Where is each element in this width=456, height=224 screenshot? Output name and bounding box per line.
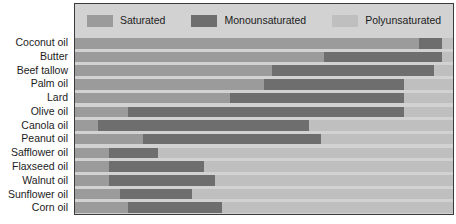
legend-swatch-monounsaturated bbox=[191, 15, 217, 27]
y-axis-tick-label: Olive oil bbox=[0, 106, 71, 117]
bar-row[interactable] bbox=[75, 93, 453, 104]
y-axis-tick-label: Peanut oil bbox=[0, 133, 71, 144]
bar-segment-monounsaturated[interactable] bbox=[109, 161, 204, 172]
bar-segment-saturated[interactable] bbox=[75, 120, 98, 131]
y-axis-tick-label: Safflower oil bbox=[0, 147, 71, 158]
bar-row[interactable] bbox=[75, 120, 453, 131]
bar-segment-monounsaturated[interactable] bbox=[272, 65, 435, 76]
bar-segment-polyunsaturated[interactable] bbox=[204, 161, 453, 172]
legend-label: Polyunsaturated bbox=[365, 15, 441, 26]
y-axis-tick-label: Butter bbox=[0, 51, 71, 62]
bar-segment-saturated[interactable] bbox=[75, 107, 128, 118]
legend-entry-saturated[interactable]: Saturated bbox=[87, 15, 166, 27]
bar-segment-polyunsaturated[interactable] bbox=[442, 38, 453, 49]
y-axis-tick-label: Corn oil bbox=[0, 202, 71, 213]
bar-segment-saturated[interactable] bbox=[75, 65, 272, 76]
bar-segment-monounsaturated[interactable] bbox=[109, 175, 215, 186]
bar-segment-monounsaturated[interactable] bbox=[98, 120, 310, 131]
bar-segment-saturated[interactable] bbox=[75, 52, 324, 63]
y-axis-tick-label: Walnut oil bbox=[0, 175, 71, 186]
bar-segment-polyunsaturated[interactable] bbox=[404, 107, 453, 118]
bar-row[interactable] bbox=[75, 189, 453, 200]
bar-row[interactable] bbox=[75, 175, 453, 186]
bar-row[interactable] bbox=[75, 65, 453, 76]
legend-swatch-polyunsaturated bbox=[332, 15, 358, 27]
legend-label: Monounsaturated bbox=[224, 15, 306, 26]
bar-segment-saturated[interactable] bbox=[75, 161, 109, 172]
bar-segment-polyunsaturated[interactable] bbox=[158, 148, 453, 159]
plot-panel: SaturatedMonounsaturatedPolyunsaturated bbox=[74, 3, 454, 215]
bar-row[interactable] bbox=[75, 79, 453, 90]
bar-row[interactable] bbox=[75, 202, 453, 213]
bar-segment-monounsaturated[interactable] bbox=[419, 38, 442, 49]
y-axis-tick-label: Beef tallow bbox=[0, 65, 71, 76]
bar-row[interactable] bbox=[75, 161, 453, 172]
legend-swatch-saturated bbox=[87, 15, 113, 27]
bar-segment-polyunsaturated[interactable] bbox=[215, 175, 453, 186]
bar-segment-saturated[interactable] bbox=[75, 93, 230, 104]
bar-segment-saturated[interactable] bbox=[75, 175, 109, 186]
bar-row[interactable] bbox=[75, 52, 453, 63]
bar-segment-polyunsaturated[interactable] bbox=[222, 202, 453, 213]
bar-segment-saturated[interactable] bbox=[75, 79, 264, 90]
y-axis-tick-label: Sunflower oil bbox=[0, 189, 71, 200]
y-axis-tick-label: Canola oil bbox=[0, 120, 71, 131]
bar-row[interactable] bbox=[75, 148, 453, 159]
bar-segment-saturated[interactable] bbox=[75, 38, 419, 49]
chart-legend: SaturatedMonounsaturatedPolyunsaturated bbox=[75, 4, 453, 37]
bar-segment-polyunsaturated[interactable] bbox=[442, 52, 453, 63]
legend-label: Saturated bbox=[120, 15, 166, 26]
bar-segment-saturated[interactable] bbox=[75, 134, 143, 145]
bar-segment-polyunsaturated[interactable] bbox=[434, 65, 453, 76]
bar-row[interactable] bbox=[75, 38, 453, 49]
y-axis-tick-label: Lard bbox=[0, 92, 71, 103]
bar-segment-polyunsaturated[interactable] bbox=[192, 189, 453, 200]
bar-segment-polyunsaturated[interactable] bbox=[404, 79, 453, 90]
bar-segment-monounsaturated[interactable] bbox=[143, 134, 321, 145]
bar-segment-monounsaturated[interactable] bbox=[264, 79, 404, 90]
y-axis-category-labels: Coconut oilButterBeef tallowPalm oilLard… bbox=[0, 36, 71, 214]
legend-entry-monounsaturated[interactable]: Monounsaturated bbox=[191, 15, 306, 27]
bar-segment-saturated[interactable] bbox=[75, 202, 128, 213]
y-axis-tick-label: Coconut oil bbox=[0, 37, 71, 48]
stacked-bar-chart: Coconut oilButterBeef tallowPalm oilLard… bbox=[0, 0, 456, 224]
bar-segment-monounsaturated[interactable] bbox=[324, 52, 441, 63]
bar-segment-monounsaturated[interactable] bbox=[109, 148, 158, 159]
bar-segment-monounsaturated[interactable] bbox=[128, 107, 404, 118]
plot-area bbox=[75, 37, 453, 214]
bar-segment-polyunsaturated[interactable] bbox=[321, 134, 453, 145]
bar-row[interactable] bbox=[75, 134, 453, 145]
y-axis-tick-label: Flaxseed oil bbox=[0, 161, 71, 172]
bar-segment-monounsaturated[interactable] bbox=[120, 189, 192, 200]
bar-segment-monounsaturated[interactable] bbox=[128, 202, 223, 213]
bar-segment-polyunsaturated[interactable] bbox=[309, 120, 453, 131]
legend-entry-polyunsaturated[interactable]: Polyunsaturated bbox=[332, 15, 441, 27]
bar-segment-saturated[interactable] bbox=[75, 148, 109, 159]
y-axis-tick-label: Palm oil bbox=[0, 78, 71, 89]
bar-segment-polyunsaturated[interactable] bbox=[404, 93, 453, 104]
bar-row[interactable] bbox=[75, 107, 453, 118]
bar-segment-monounsaturated[interactable] bbox=[230, 93, 404, 104]
bar-segment-saturated[interactable] bbox=[75, 189, 120, 200]
